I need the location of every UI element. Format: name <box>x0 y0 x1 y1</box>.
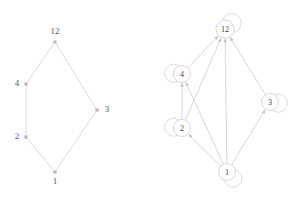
graph-panel-right: 124231 <box>150 0 300 202</box>
left-node-group <box>24 40 98 173</box>
graph-node-label: 3 <box>105 104 110 114</box>
graph-edge <box>55 110 97 172</box>
graph-edge-directed <box>186 38 222 120</box>
left-graph-svg: 124213 <box>0 0 150 202</box>
graph-edge-directed <box>186 82 223 164</box>
graph-node <box>24 82 27 85</box>
graph-node-label: 2 <box>15 131 20 141</box>
graph-node-label: 12 <box>221 25 229 34</box>
graph-node-label: 1 <box>53 176 58 186</box>
edge-arrowhead-icon <box>230 37 234 41</box>
right-graph-svg: 124231 <box>150 0 300 202</box>
graph-node-label: 2 <box>180 124 184 133</box>
graph-node <box>95 108 98 111</box>
graph-node-label: 3 <box>268 98 272 107</box>
graph-node-label: 4 <box>15 78 20 88</box>
graph-node-label: 12 <box>51 26 60 36</box>
graph-node-label: 4 <box>180 70 184 79</box>
right-edge-group <box>180 36 265 166</box>
edge-arrowhead-icon <box>262 110 266 114</box>
graph-node-label: 1 <box>225 168 229 177</box>
graph-edge-directed <box>232 110 266 165</box>
graph-edge-directed <box>225 38 227 163</box>
edge-arrowhead-icon <box>223 38 226 42</box>
graph-edge-directed <box>188 36 218 68</box>
edge-arrowhead-icon <box>180 83 183 87</box>
graph-node <box>53 170 56 173</box>
graph-edge <box>26 42 55 84</box>
graph-node <box>24 135 27 138</box>
graph-node <box>53 40 56 43</box>
graph-edge-directed <box>188 134 220 165</box>
graph-edge <box>55 42 97 110</box>
graph-panel-left: 124213 <box>0 0 150 202</box>
figure-canvas: 124213 124231 <box>0 0 300 202</box>
graph-edge-directed <box>230 37 265 94</box>
graph-edge <box>26 137 55 172</box>
left-edge-group <box>26 42 97 172</box>
